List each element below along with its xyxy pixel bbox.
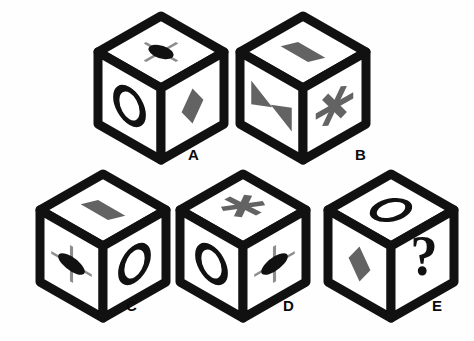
- svg-text:?: ?: [410, 224, 438, 288]
- cube-b-drawing: [238, 14, 370, 164]
- cube-e-right-symbol: ?: [410, 224, 438, 288]
- cube-a-drawing: [96, 14, 228, 164]
- cube-option-a[interactable]: [96, 14, 228, 164]
- cube-option-c[interactable]: [38, 172, 170, 322]
- question-mark-symbol: ?: [410, 224, 438, 288]
- cube-faces: [240, 16, 366, 160]
- cube-option-b[interactable]: [238, 14, 370, 164]
- cube-label-b: B: [355, 147, 366, 162]
- cube-label-d: D: [283, 298, 294, 313]
- cube-c-drawing: [38, 172, 170, 322]
- puzzle-stage: A B: [0, 0, 474, 341]
- cube-label-e: E: [432, 298, 442, 313]
- cube-label-c: C: [126, 298, 137, 313]
- cube-label-a: A: [188, 147, 199, 162]
